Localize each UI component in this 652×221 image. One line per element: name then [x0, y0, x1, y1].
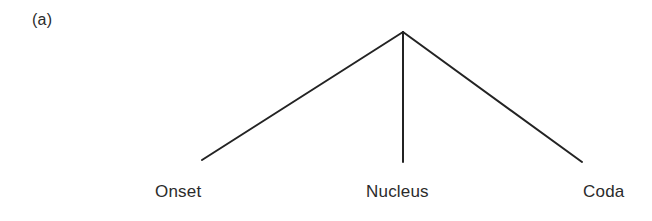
node-label-nucleus: Nucleus — [366, 182, 429, 202]
node-label-onset: Onset — [155, 182, 201, 202]
syllable-tree-graphic — [0, 0, 652, 221]
node-label-coda: Coda — [583, 182, 624, 202]
figure-canvas: (a) Onset Nucleus Coda — [0, 0, 652, 221]
branch-onset-line — [202, 32, 403, 160]
branch-coda-line — [403, 32, 582, 162]
